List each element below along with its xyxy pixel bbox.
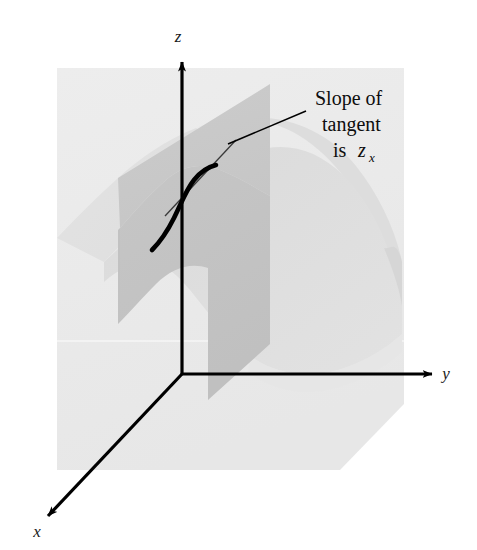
cutting-plane-left-sliver — [118, 228, 120, 324]
annotation-line-2: tangent — [322, 113, 381, 136]
annotation-line-3: is — [333, 139, 347, 161]
annotation-subscript: x — [368, 150, 375, 165]
x-axis-label: x — [32, 522, 41, 541]
y-axis-label: y — [440, 364, 450, 383]
figure-container: z y x Slope of tangent is z x — [0, 0, 477, 550]
z-axis-label: z — [174, 27, 182, 46]
partial-derivative-figure: z y x Slope of tangent is z x — [0, 0, 477, 550]
annotation-line-1: Slope of — [315, 87, 383, 110]
annotation-variable: z — [357, 139, 366, 161]
